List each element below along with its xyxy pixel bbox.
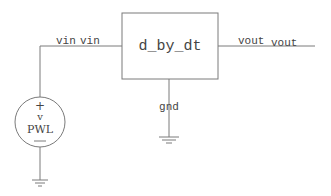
vin-net-label: vin [56, 35, 76, 47]
schematic-canvas: d_by_dt vin vin vout vout gnd + v PWL [0, 0, 331, 196]
source-type-label: v [36, 111, 43, 122]
source-name-label: PWL [27, 123, 54, 136]
ground-symbol-block [159, 137, 179, 143]
vin-pin-label: vin [80, 35, 100, 47]
gnd-label: gnd [159, 101, 179, 113]
vout-net-label: vout [271, 37, 297, 49]
vout-pin-label: vout [238, 35, 264, 47]
block-label: d_by_dt [138, 38, 201, 55]
ground-symbol-source [32, 180, 48, 186]
